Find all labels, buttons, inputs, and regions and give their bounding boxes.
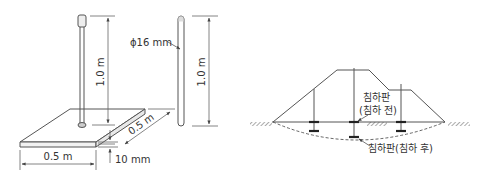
plate-before-label-line1: 침하판 [363, 91, 390, 103]
plate-width-label: 0.5 m [44, 151, 73, 162]
figure-canvas: 1.0 m 0.5 m 0.5 m 10 mm ϕ [0, 0, 484, 181]
ground-hatch-right [448, 122, 470, 126]
rod-height-label: 1.0 m [95, 58, 106, 87]
plate-before-label-line2: (침하 전) [359, 104, 397, 116]
ground-hatch-left [250, 122, 272, 126]
standalone-rod-height-label: 1.0 m [196, 58, 207, 87]
standalone-rod [178, 16, 184, 126]
settlement-plate-diagram: 1.0 m 0.5 m 0.5 m 10 mm ϕ [20, 15, 218, 170]
rod-diameter-label: ϕ16 mm [130, 37, 172, 48]
ground-hatch-center [367, 122, 387, 126]
plates-after [309, 131, 406, 137]
embankment-diagram: 침하판 (침하 전) 침하판(침하 후) [250, 68, 470, 154]
plate-after-label: 침하판(침하 후) [368, 142, 433, 154]
plate-thickness-label: 10 mm [115, 154, 150, 165]
